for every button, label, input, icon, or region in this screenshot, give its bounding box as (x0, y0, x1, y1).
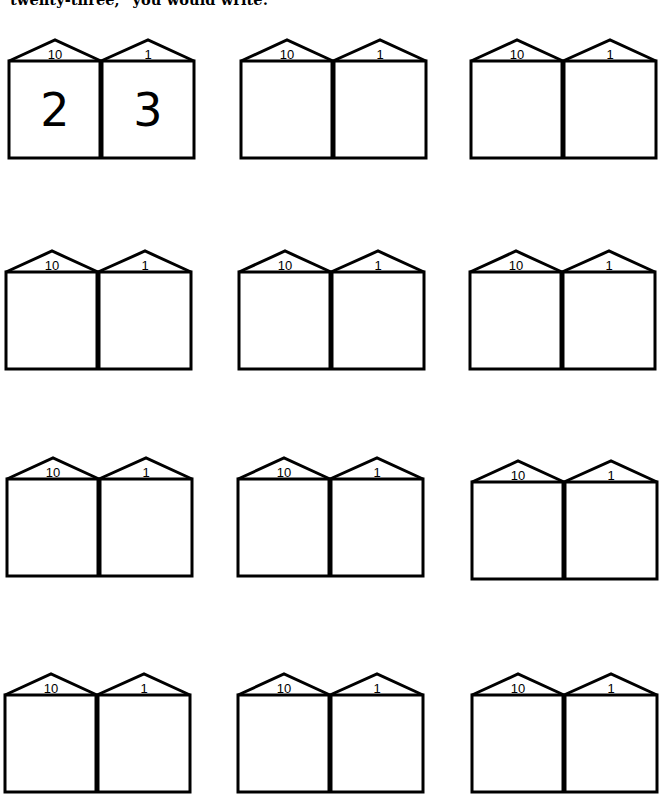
place-value-house-r4-c3: 10 1 (470, 672, 660, 794)
ones-digit-box[interactable] (332, 480, 422, 576)
tens-digit-box[interactable] (8, 480, 98, 576)
tens-place-label: 10 (488, 469, 548, 482)
tens-digit-box[interactable] (6, 696, 96, 792)
ones-digit-box[interactable]: 3 (103, 62, 193, 158)
place-value-house-r2-c1: 10 1 (4, 249, 194, 371)
place-value-house-r4-c2: 10 1 (236, 672, 426, 794)
tens-digit-box[interactable] (239, 480, 329, 576)
tens-place-label: 10 (254, 682, 314, 695)
place-value-house-r3-c3: 10 1 (470, 459, 660, 581)
ones-place-label: 1 (580, 48, 640, 61)
ones-place-label: 1 (118, 48, 178, 61)
place-value-house-r1-c2: 10 1 (239, 38, 429, 160)
tens-digit-box[interactable] (239, 696, 329, 792)
tens-place-label: 10 (22, 259, 82, 272)
place-value-house-r3-c1: 10 1 (5, 456, 195, 578)
place-value-house-r1-c3: 10 1 (469, 38, 659, 160)
instruction-text: twenty-three," you would write: (10, 0, 268, 8)
tens-digit-box[interactable]: 2 (10, 62, 100, 158)
tens-digit-box[interactable] (472, 62, 562, 158)
tens-place-label: 10 (487, 48, 547, 61)
ones-place-label: 1 (114, 682, 174, 695)
ones-digit-box[interactable] (99, 696, 189, 792)
tens-digit-box[interactable] (7, 273, 97, 369)
ones-digit-box[interactable] (332, 696, 422, 792)
ones-digit-box[interactable] (100, 273, 190, 369)
ones-place-label: 1 (347, 682, 407, 695)
ones-place-label: 1 (347, 466, 407, 479)
tens-digit-box[interactable] (471, 273, 561, 369)
place-value-house-r1-c1: 10 1 2 3 (7, 38, 197, 160)
ones-digit-box[interactable] (333, 273, 423, 369)
ones-digit-box[interactable] (564, 273, 654, 369)
ones-place-label: 1 (581, 469, 641, 482)
tens-place-label: 10 (488, 682, 548, 695)
ones-digit-box[interactable] (565, 62, 655, 158)
tens-place-label: 10 (255, 259, 315, 272)
ones-digit-box[interactable] (566, 696, 656, 792)
place-value-house-r2-c3: 10 1 (468, 249, 658, 371)
ones-digit-box[interactable] (566, 483, 656, 579)
ones-digit-box[interactable] (101, 480, 191, 576)
place-value-house-r2-c2: 10 1 (237, 249, 427, 371)
ones-digit-box[interactable] (335, 62, 425, 158)
tens-place-label: 10 (257, 48, 317, 61)
ones-place-label: 1 (348, 259, 408, 272)
ones-place-label: 1 (116, 466, 176, 479)
tens-digit-box[interactable] (240, 273, 330, 369)
ones-place-label: 1 (581, 682, 641, 695)
place-value-house-r3-c2: 10 1 (236, 456, 426, 578)
tens-digit-box[interactable] (242, 62, 332, 158)
tens-place-label: 10 (254, 466, 314, 479)
place-value-house-r4-c1: 10 1 (3, 672, 193, 794)
tens-place-label: 10 (21, 682, 81, 695)
ones-place-label: 1 (115, 259, 175, 272)
tens-place-label: 10 (486, 259, 546, 272)
tens-place-label: 10 (23, 466, 83, 479)
tens-digit-box[interactable] (473, 483, 563, 579)
ones-place-label: 1 (350, 48, 410, 61)
tens-place-label: 10 (25, 48, 85, 61)
tens-digit-box[interactable] (473, 696, 563, 792)
ones-place-label: 1 (579, 259, 639, 272)
